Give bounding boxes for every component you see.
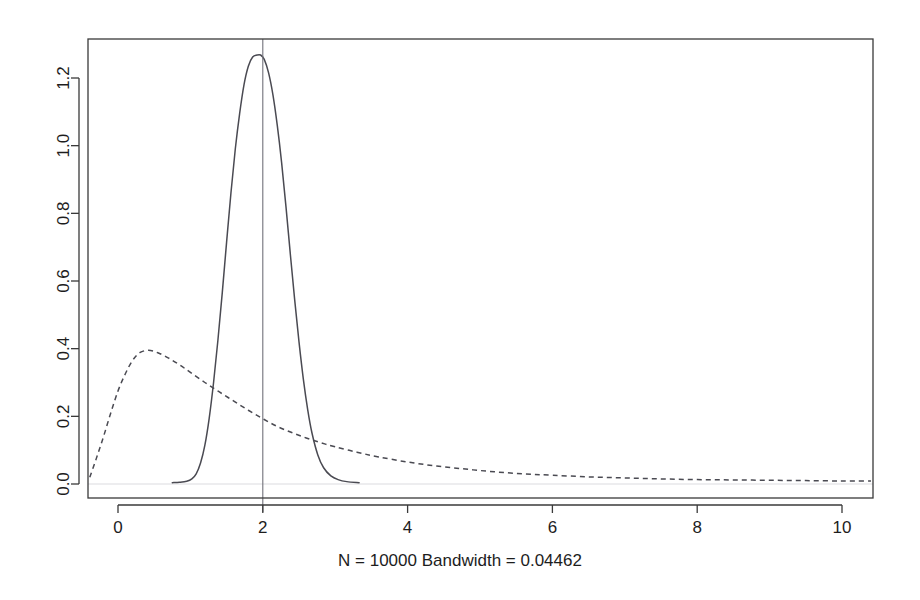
y-tick-labels: 0.00.20.40.60.81.01.2 (54, 66, 73, 496)
series-broad-density (90, 350, 871, 481)
x-tick-label: 8 (692, 518, 701, 537)
y-tick-label: 0.6 (54, 269, 73, 293)
y-tick-label: 0.2 (54, 405, 73, 429)
x-tick-label: 6 (548, 518, 557, 537)
x-tick-label: 10 (833, 518, 852, 537)
plot-canvas: 0246810 0.00.20.40.60.81.01.2 N = 10000 … (0, 0, 920, 600)
plot-frame (88, 39, 873, 498)
density-plot-container: 0246810 0.00.20.40.60.81.01.2 N = 10000 … (0, 0, 920, 600)
x-tick-label: 2 (258, 518, 267, 537)
y-tick-label: 1.2 (54, 66, 73, 90)
x-tick-label: 4 (403, 518, 412, 537)
y-tick-label: 0.8 (54, 202, 73, 226)
y-tick-label: 0.4 (54, 337, 73, 361)
y-tick-label: 0.0 (54, 472, 73, 496)
x-tick-labels: 0246810 (113, 518, 851, 537)
y-tick-label: 1.0 (54, 134, 73, 158)
density-curves (90, 55, 871, 483)
plot-caption: N = 10000 Bandwidth = 0.04462 (338, 551, 582, 570)
x-axis (118, 505, 842, 513)
x-tick-label: 0 (113, 518, 122, 537)
series-narrow-density (172, 55, 359, 483)
